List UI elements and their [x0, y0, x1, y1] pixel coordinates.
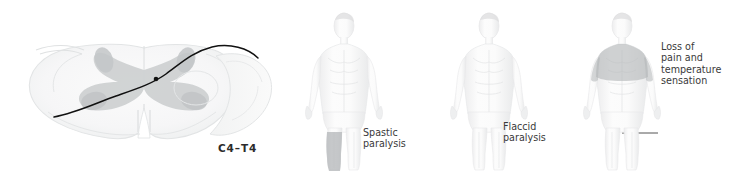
human-body-figure-2	[435, 0, 580, 173]
shaded-region-cape	[591, 44, 653, 82]
body-silhouette	[451, 13, 528, 170]
medical-illustration: C4–T4	[0, 0, 739, 173]
callout-sensory-loss: Loss of pain and temperature sensation	[661, 41, 721, 87]
spinal-level-label: C4–T4	[218, 142, 257, 154]
body-silhouette	[584, 13, 661, 170]
figure-flaccid-paralysis	[435, 0, 580, 173]
shaded-region-lower-leg	[326, 132, 342, 171]
tract-lesion-marker	[154, 77, 159, 82]
callout-flaccid-paralysis: Flaccid paralysis	[503, 121, 546, 144]
callout-spastic-paralysis: Spastic paralysis	[363, 127, 406, 150]
spinal-cord-panel: C4–T4	[0, 0, 290, 173]
